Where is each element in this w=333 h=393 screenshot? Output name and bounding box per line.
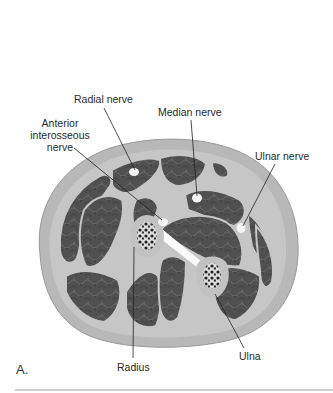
- separator-line: [15, 389, 333, 391]
- anterior-interosseous-line1: Anterior: [20, 117, 100, 129]
- panel-letter: A.: [16, 362, 28, 377]
- anterior-interosseous-line3: nerve: [20, 141, 100, 153]
- radial-nerve-label: Radial nerve: [74, 93, 133, 105]
- ulnar-nerve-label: Ulnar nerve: [255, 150, 309, 162]
- median-nerve-label: Median nerve: [158, 106, 222, 118]
- anterior-interosseous-nerve-dot: [158, 218, 168, 226]
- forearm-cross-section: [0, 0, 333, 393]
- radius-label: Radius: [117, 361, 150, 373]
- ulna-label: Ulna: [239, 350, 261, 362]
- anterior-interosseous-nerve-label: Anterior interosseous nerve: [20, 117, 100, 153]
- anterior-interosseous-line2: interosseous: [20, 129, 100, 141]
- radial-nerve-dot: [129, 168, 139, 176]
